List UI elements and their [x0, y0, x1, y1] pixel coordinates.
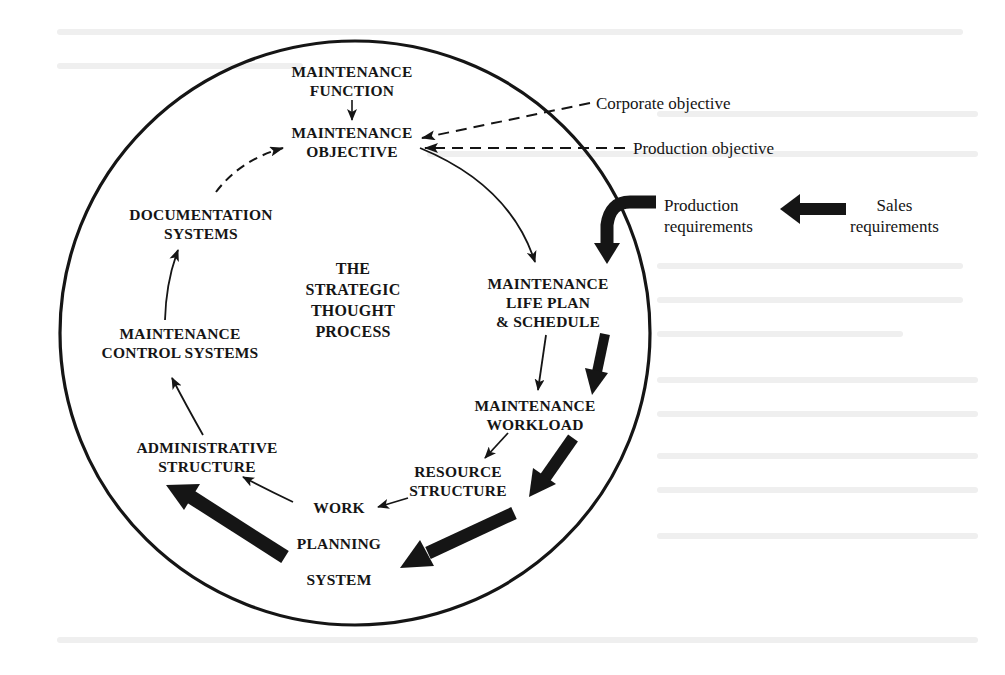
- arrow-workload-to-resource-thick: [529, 438, 573, 497]
- label-sales-requirements: Sales requirements: [850, 195, 939, 237]
- node-maintenance-control-systems: MAINTENANCE CONTROL SYSTEMS: [102, 324, 259, 362]
- node-maintenance-workload: MAINTENANCE WORKLOAD: [474, 396, 595, 434]
- node-maintenance-function-line1: MAINTENANCE: [291, 62, 412, 81]
- label-sales-requirements-line1: Sales: [850, 195, 939, 216]
- center-label-line3: THOUGHT: [306, 300, 401, 321]
- center-label-line4: PROCESS: [306, 321, 401, 342]
- arrow-production-req-to-lifeplan: [594, 202, 656, 264]
- label-production-objective: Production objective: [633, 138, 774, 159]
- node-maintenance-objective: MAINTENANCE OBJECTIVE: [291, 123, 412, 161]
- node-lifeplan-line3: & SCHEDULE: [487, 312, 608, 331]
- strategic-thought-process-diagram: MAINTENANCE FUNCTION MAINTENANCE OBJECTI…: [0, 0, 1005, 675]
- label-corporate-objective: Corporate objective: [596, 93, 731, 114]
- arrow-control-to-documentation: [165, 250, 178, 320]
- node-maintenance-objective-line2: OBJECTIVE: [291, 142, 412, 161]
- arrow-lifeplan-to-workload-thin: [538, 335, 546, 390]
- node-lifeplan-line2: LIFE PLAN: [487, 293, 608, 312]
- arrow-documentation-to-objective: [216, 148, 283, 192]
- arrow-workplanning-to-admin-thick: [166, 484, 285, 557]
- label-production-requirements-line1: Production: [664, 195, 753, 216]
- center-label-line2: STRATEGIC: [306, 279, 401, 300]
- arrow-work-to-admin-thin: [243, 477, 293, 502]
- node-maintenance-life-plan: MAINTENANCE LIFE PLAN & SCHEDULE: [487, 274, 608, 331]
- label-corporate-objective-text: Corporate objective: [596, 93, 731, 114]
- label-production-objective-text: Production objective: [633, 138, 774, 159]
- arrow-resource-to-work-thin: [378, 498, 408, 507]
- arrow-lifeplan-to-workload-thick: [585, 334, 608, 395]
- node-admin-line1: ADMINISTRATIVE: [136, 438, 277, 457]
- node-control-line1: MAINTENANCE: [102, 324, 259, 343]
- node-resource-line1: RESOURCE: [409, 462, 506, 481]
- node-documentation-systems-line2: SYSTEMS: [129, 224, 272, 243]
- node-documentation-systems: DOCUMENTATION SYSTEMS: [129, 205, 272, 243]
- arrow-corporate-to-objective: [422, 103, 590, 138]
- node-workplanning-line3: SYSTEM: [297, 562, 381, 598]
- node-maintenance-function-line2: FUNCTION: [291, 81, 412, 100]
- arrow-sales-to-production: [780, 194, 846, 224]
- arrow-workload-to-resource-thin: [485, 433, 508, 458]
- arrow-objective-to-lifeplan: [420, 148, 535, 262]
- center-label: THE STRATEGIC THOUGHT PROCESS: [306, 258, 401, 342]
- label-production-requirements-line2: requirements: [664, 216, 753, 237]
- label-production-requirements: Production requirements: [664, 195, 753, 237]
- node-resource-structure: RESOURCE STRUCTURE: [409, 462, 506, 500]
- center-label-line1: THE: [306, 258, 401, 279]
- node-administrative-structure: ADMINISTRATIVE STRUCTURE: [136, 438, 277, 476]
- node-workload-line1: MAINTENANCE: [474, 396, 595, 415]
- node-maintenance-objective-line1: MAINTENANCE: [291, 123, 412, 142]
- node-workload-line2: WORKLOAD: [474, 415, 595, 434]
- node-maintenance-function: MAINTENANCE FUNCTION: [291, 62, 412, 100]
- node-resource-line2: STRUCTURE: [409, 481, 506, 500]
- node-workplanning-line2: PLANNING: [297, 526, 381, 562]
- arrow-admin-to-control: [172, 378, 203, 435]
- node-documentation-systems-line1: DOCUMENTATION: [129, 205, 272, 224]
- node-admin-line2: STRUCTURE: [136, 457, 277, 476]
- node-lifeplan-line1: MAINTENANCE: [487, 274, 608, 293]
- node-workplanning-line1: WORK: [297, 490, 381, 526]
- arrow-resource-to-workplanning-thick: [400, 513, 514, 568]
- node-control-line2: CONTROL SYSTEMS: [102, 343, 259, 362]
- node-work-planning-system: WORK PLANNING SYSTEM: [297, 490, 381, 598]
- label-sales-requirements-line2: requirements: [850, 216, 939, 237]
